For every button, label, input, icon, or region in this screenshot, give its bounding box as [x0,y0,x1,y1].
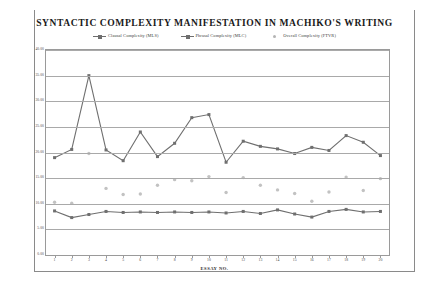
x-axis-tickmark [192,255,193,258]
x-axis-tick-11: 11 [224,258,228,262]
legend-item-phrasal: Phrasal Complexity (MLC) [181,34,247,39]
x-axis-tick-17: 17 [327,258,331,262]
x-axis-tick-2: 2 [71,258,73,262]
x-axis-tickmark [278,255,279,258]
x-axis-tick-19: 19 [361,258,365,262]
x-axis-tick-9: 9 [191,258,193,262]
x-axis-tickmark [72,255,73,258]
data-point-marker [105,210,108,213]
x-axis-tick-18: 18 [344,258,348,262]
data-point-marker [362,141,365,144]
x-axis-tick-4: 4 [105,258,107,262]
scatter-point [276,188,279,191]
data-point-marker [225,211,228,214]
x-axis-tick-15: 15 [293,258,297,262]
chart-page: SYNTACTIC COMPLEXITY MANIFESTATION IN MA… [0,0,429,287]
y-axis-tick-4: 20.00 [35,150,44,154]
data-point-marker [276,147,279,150]
legend-label-overall: Overall Complexity (FTVR) [283,34,336,38]
data-point-marker [53,209,56,212]
data-point-marker [379,210,382,213]
chart-legend: Clausal Complexity (MLS) Phrasal Complex… [0,34,429,39]
data-point-marker [139,210,142,213]
x-axis-tickmark [175,255,176,258]
scatter-point [310,199,313,202]
data-point-marker [242,140,245,143]
series-line [55,209,381,217]
data-point-marker [259,212,262,215]
legend-label-clausal: Clausal Complexity (MLS) [108,34,158,38]
scatter-point [121,193,124,196]
series-1 [53,74,382,164]
x-axis-tickmark [157,255,158,258]
series-line [55,76,381,163]
data-point-marker [362,210,365,213]
phrasal-series-marker-icon [181,34,194,39]
data-point-marker [156,155,159,158]
gridline [46,178,389,179]
data-point-marker [293,213,296,216]
x-axis-tick-14: 14 [276,258,280,262]
data-point-marker [87,213,90,216]
data-point-marker [379,154,382,157]
y-axis-tick-2: 10.00 [35,201,44,205]
y-axis-tick-7: 35.00 [35,73,44,77]
data-point-marker [276,208,279,211]
data-point-marker [173,142,176,145]
data-point-marker [70,216,73,219]
x-axis-tickmark [260,255,261,258]
data-point-marker [105,148,108,151]
scatter-point [224,191,227,194]
data-point-marker [173,210,176,213]
gridline [46,153,389,154]
data-point-marker [207,113,210,116]
data-point-marker [327,210,330,213]
x-axis-tickmark [243,255,244,258]
overall-series-marker-icon [268,34,281,39]
x-axis-tick-5: 5 [122,258,124,262]
legend-item-clausal: Clausal Complexity (MLS) [93,34,158,39]
data-point-marker [310,216,313,219]
x-axis-tickmark [295,255,296,258]
data-point-marker [122,159,125,162]
data-point-marker [225,161,228,164]
data-point-marker [70,148,73,151]
x-axis-tick-7: 7 [157,258,159,262]
x-axis-tickmark [209,255,210,258]
data-point-marker [259,145,262,148]
data-point-marker [139,131,142,134]
data-point-marker [345,208,348,211]
data-point-marker [156,211,159,214]
x-axis-tick-12: 12 [241,258,245,262]
y-axis-tick-3: 15.00 [35,175,44,179]
scatter-point [259,184,262,187]
scatter-point [156,184,159,187]
x-axis-tick-3: 3 [88,258,90,262]
x-axis-tickmark [329,255,330,258]
data-point-marker [345,134,348,137]
data-point-marker [242,210,245,213]
x-axis-tickmark [55,255,56,258]
series-2 [53,208,382,219]
x-axis-tick-13: 13 [258,258,262,262]
x-axis-tick-10: 10 [207,258,211,262]
data-point-marker [207,210,210,213]
gridline [46,204,389,205]
x-axis-tick-1: 1 [54,258,56,262]
scatter-point [190,179,193,182]
x-axis-tickmark [363,255,364,258]
y-axis-tick-8: 40.00 [35,47,44,51]
x-axis-tick-16: 16 [310,258,314,262]
data-point-marker [53,156,56,159]
x-axis-tickmark [226,255,227,258]
y-axis-tick-labels: 0.005.0010.0015.0020.0025.0030.0035.0040… [20,45,44,260]
scatter-point [139,192,142,195]
x-axis-tick-20: 20 [379,258,383,262]
x-axis-tickmark [140,255,141,258]
legend-label-phrasal: Phrasal Complexity (MLC) [196,34,247,38]
scatter-point [362,189,365,192]
gridline [46,76,389,77]
scatter-point [293,192,296,195]
gridline [46,50,389,51]
x-axis-tick-6: 6 [139,258,141,262]
